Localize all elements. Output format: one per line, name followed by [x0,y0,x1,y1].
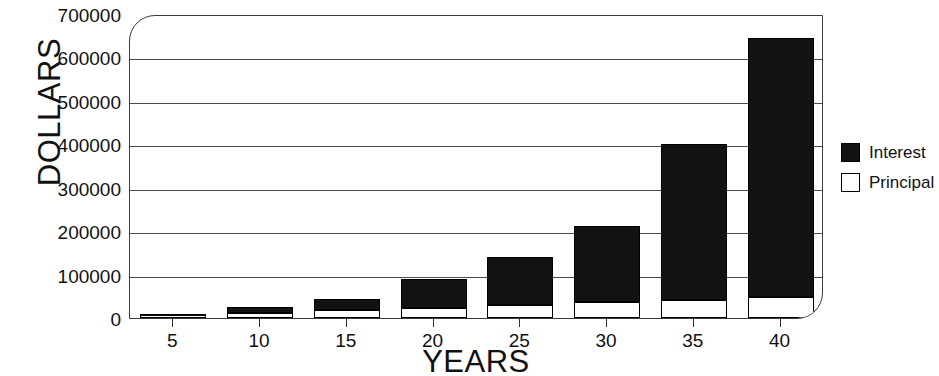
bar-segment-principal [661,300,727,318]
bar-segment-interest [748,38,814,297]
y-axis-tick-label: 0 [110,310,121,329]
bar-segment-principal [227,313,293,318]
bar-segment-interest [401,279,467,308]
legend-label: Principal [869,173,934,192]
x-axis-tick-mark [433,319,434,327]
y-axis-tick-label: 600000 [58,49,121,68]
x-axis-tick-mark [259,319,260,327]
bar-segment-principal [314,310,380,318]
y-axis-tick-label: 300000 [58,180,121,199]
bar-15-years [314,299,380,318]
y-axis-tick-labels: 0100000200000300000400000500000600000700… [0,0,128,340]
y-axis-tick-label: 400000 [58,136,121,155]
y-axis-tick-label: 500000 [58,93,121,112]
bar-35-years [661,144,727,318]
bar-segment-principal [140,315,206,318]
legend-item-interest: Interest [841,139,939,165]
bar-segment-interest [574,226,640,302]
bar-40-years [748,38,814,318]
legend-swatch-icon [841,143,860,162]
bar-segment-interest [314,299,380,310]
y-axis-tick-label: 100000 [58,267,121,286]
x-axis-tick-mark [606,319,607,327]
bar-segment-principal [748,297,814,318]
y-axis-tick-label: 700000 [58,6,121,25]
bar-30-years [574,226,640,318]
bar-segment-principal [574,302,640,318]
x-axis-tick-mark [780,319,781,327]
legend-item-principal: Principal [841,169,939,195]
y-axis-tick-label: 200000 [58,223,121,242]
bar-segment-principal [401,308,467,318]
x-axis-tick-mark [519,319,520,327]
bar-chart-figure: DOLLARS 01000002000003000004000005000006… [0,0,939,376]
bar-series-group [130,16,822,318]
bar-10-years [227,307,293,318]
x-axis-title: YEARS [129,344,823,376]
legend-swatch-icon [841,173,860,192]
x-axis-tick-mark [346,319,347,327]
bar-20-years [401,279,467,318]
x-axis-tick-mark [172,319,173,327]
bar-segment-principal [487,305,553,318]
legend-label: Interest [869,143,926,162]
bar-5-years [140,314,206,318]
legend: InterestPrincipal [841,139,939,199]
bar-segment-interest [487,257,553,305]
x-axis-tick-mark [693,319,694,327]
bar-segment-interest [661,144,727,299]
bar-25-years [487,257,553,318]
plot-area [129,15,823,319]
